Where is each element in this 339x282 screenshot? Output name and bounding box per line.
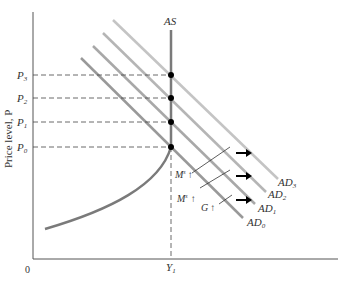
ms-shift-label-2: Ms↑ (176, 193, 196, 204)
ad2-label: AD2 (267, 188, 287, 202)
equilibrium-point-p2 (168, 95, 174, 101)
ad1-label: AD1 (257, 202, 276, 216)
origin-label: 0 (25, 264, 30, 275)
as-ad-diagram: AS P3 P2 P1 P0 Price level, P 0 Y1 Ms↑ M… (0, 0, 339, 282)
ms-shift-label-1: Ms↑ (174, 169, 193, 180)
as-label: AS (163, 15, 177, 27)
shift-arrow-icon (236, 172, 252, 180)
g-shift-label: G↑ (201, 202, 215, 213)
ad0-label: AD0 (246, 216, 266, 230)
y1-label: Y1 (166, 261, 176, 275)
p0-label: P0 (16, 141, 28, 155)
equilibrium-point-p1 (168, 119, 174, 125)
ms-leader-line-1 (192, 147, 230, 173)
p1-label: P1 (16, 116, 27, 130)
p2-label: P2 (16, 92, 28, 106)
equilibrium-point-p0 (168, 144, 174, 150)
ad3-curve (113, 20, 278, 179)
p3-label: P3 (16, 69, 28, 83)
equilibrium-point-p3 (168, 72, 174, 78)
ad0-curve (81, 58, 243, 218)
ad1-curve (93, 46, 255, 204)
y-axis-label: Price level, P (2, 110, 14, 168)
